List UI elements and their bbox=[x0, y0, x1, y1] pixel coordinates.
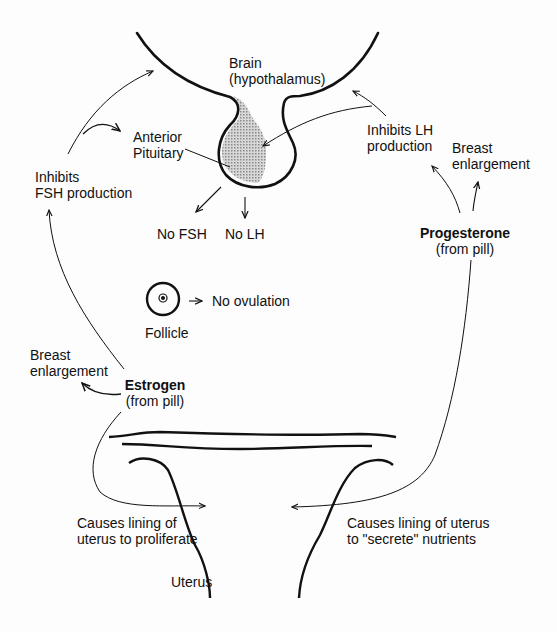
brain-label: Brain (hypothalamus) bbox=[229, 55, 326, 87]
no-ovulation-label: No ovulation bbox=[212, 293, 290, 309]
breast-enlargement-estrogen-label: Breast enlargement bbox=[30, 347, 108, 379]
arrow-estrogen-to-fsh bbox=[49, 210, 124, 369]
arrow-lh-to-brain bbox=[353, 91, 386, 116]
no-fsh-label: No FSH bbox=[157, 226, 207, 242]
estrogen-name: Estrogen bbox=[122, 377, 188, 393]
breast-enlargement-progesterone-label: Breast enlargement bbox=[452, 140, 530, 172]
arrow-progesterone-to-breast bbox=[473, 182, 478, 211]
arrow-progesterone-to-uterus bbox=[292, 260, 471, 507]
arrow-to-pituitary bbox=[83, 125, 120, 134]
progesterone-label: Progesterone (from pill) bbox=[412, 225, 518, 257]
follicle-core bbox=[161, 296, 165, 300]
inhibits-fsh-label: Inhibits FSH production bbox=[35, 169, 132, 201]
uterus-lining-bottom bbox=[122, 444, 372, 449]
pituitary-shading bbox=[222, 96, 266, 183]
arrow-estrogen-to-breast bbox=[82, 383, 121, 395]
diagram-canvas: Brain (hypothalamus) Anterior Pituitary … bbox=[0, 0, 557, 632]
arrow-progesterone-to-lh bbox=[432, 166, 460, 213]
follicle-label: Follicle bbox=[145, 325, 189, 341]
uterus-secrete-label: Causes lining of uterus to "secrete" nut… bbox=[347, 515, 489, 547]
progesterone-name: Progesterone bbox=[412, 225, 518, 241]
anterior-pituitary-label: Anterior Pituitary bbox=[133, 129, 184, 161]
uterus-label: Uterus bbox=[171, 574, 212, 590]
arrow-no-fsh bbox=[196, 187, 221, 212]
arrow-lh-to-pituitary bbox=[263, 106, 372, 146]
no-lh-label: No LH bbox=[225, 226, 265, 242]
estrogen-label: Estrogen (from pill) bbox=[122, 377, 188, 409]
estrogen-source: (from pill) bbox=[122, 393, 188, 409]
uterus-lining-top bbox=[109, 432, 396, 437]
inhibits-lh-label: Inhibits LH production bbox=[367, 122, 433, 154]
uterus-proliferate-label: Causes lining of uterus to proliferate bbox=[77, 515, 198, 547]
progesterone-source: (from pill) bbox=[412, 241, 518, 257]
